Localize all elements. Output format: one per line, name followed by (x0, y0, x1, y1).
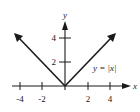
x-axis-arrow-icon (122, 83, 131, 89)
y-axis-label: y (62, 10, 67, 20)
left-branch-line (18, 37, 65, 86)
plot-figure: -4 -2 2 4 2 4 x y y = |x| (0, 0, 140, 112)
x-tick-label: -2 (38, 94, 46, 104)
y-tick-label: 4 (52, 33, 57, 43)
y-axis-arrow-icon (62, 21, 68, 30)
y-tick-label: 2 (52, 57, 57, 67)
plot-canvas: -4 -2 2 4 2 4 x y y = |x| (0, 0, 140, 112)
right-branch-line (65, 37, 112, 86)
x-tick-label: -4 (16, 94, 24, 104)
x-tick-label: 4 (108, 94, 113, 104)
x-tick-label: 2 (86, 94, 91, 104)
x-axis-label: x (132, 81, 137, 91)
function-label: y = |x| (92, 63, 117, 73)
